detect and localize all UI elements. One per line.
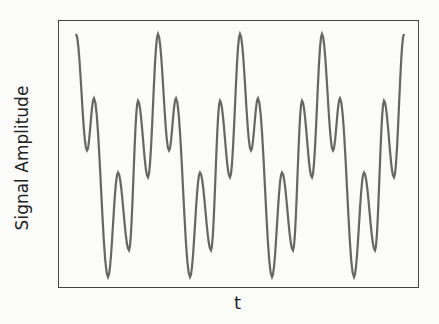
plot-frame [58,20,419,288]
signal-plot [59,21,420,289]
y-axis-label: Signal Amplitude [12,78,32,238]
signal-line [76,34,404,277]
x-axis-label: t [234,292,241,313]
